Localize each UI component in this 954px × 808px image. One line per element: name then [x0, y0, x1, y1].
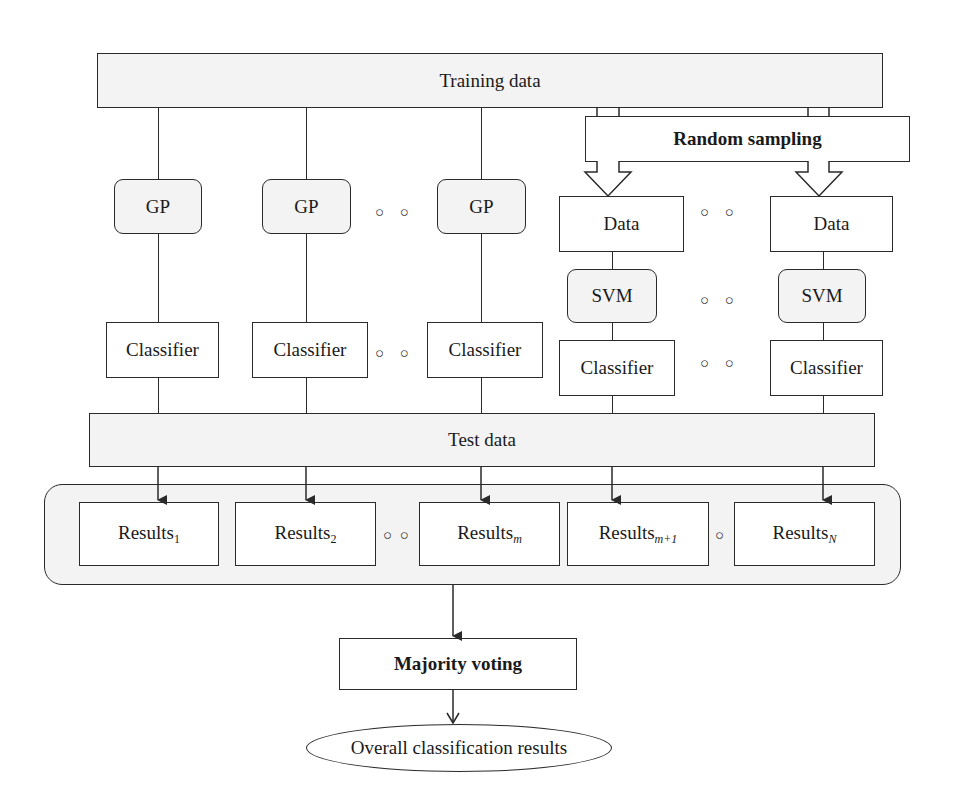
double-line-connectors [597, 107, 829, 116]
hollow-arrow-icon [796, 161, 842, 196]
hollow-arrow-icon [585, 161, 631, 196]
arrows-overlay [0, 0, 954, 808]
result-arrows [158, 467, 823, 500]
